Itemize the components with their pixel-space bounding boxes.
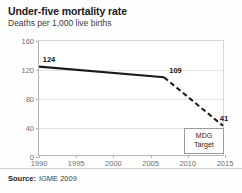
plot-area: 04080120160 199019952000200520102015 124… (38, 40, 224, 156)
chart-subtitle: Deaths per 1,000 live births (8, 18, 111, 28)
series-line-mdg-projection (164, 77, 223, 125)
x-tick-label: 2015 (217, 159, 234, 168)
mdg-target-line2: Target (194, 141, 213, 150)
x-tick-label: 2000 (105, 159, 122, 168)
footer-divider (0, 168, 242, 169)
x-tick-label: 2010 (179, 159, 196, 168)
x-tick (225, 155, 226, 158)
y-tick-label: 40 (26, 124, 34, 133)
x-tick (151, 155, 152, 158)
x-tick-label: 2005 (142, 159, 159, 168)
chart-card: Under-five mortality rate Deaths per 1,0… (0, 0, 242, 193)
data-point-label: 109 (169, 66, 182, 75)
x-tick (76, 155, 77, 158)
y-tick-label: 80 (26, 95, 34, 104)
source-note: Source:IGME 2009 (8, 174, 77, 183)
y-tick-label: 160 (21, 37, 34, 46)
x-tick (188, 155, 189, 158)
y-tick-label: 120 (21, 66, 34, 75)
x-tick (39, 155, 40, 158)
series-line-observed (39, 67, 164, 78)
data-point-label: 124 (43, 55, 56, 64)
mdg-target-line1: MDG (196, 132, 212, 141)
x-tick (113, 155, 114, 158)
data-point-label: 41 (220, 114, 228, 123)
source-value: IGME 2009 (39, 174, 77, 183)
x-tick-label: 1995 (68, 159, 85, 168)
mdg-target-annotation: MDG Target (184, 128, 224, 154)
page-title: Under-five mortality rate (8, 5, 127, 17)
x-tick-label: 1990 (31, 159, 48, 168)
source-label: Source: (8, 174, 36, 183)
